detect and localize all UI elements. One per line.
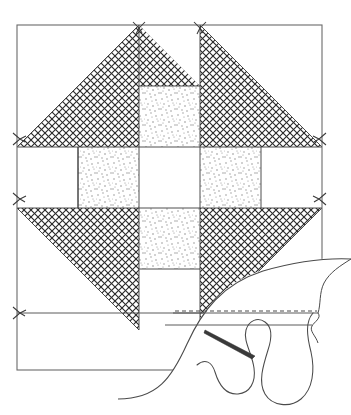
patch-r2c1-stipple	[78, 147, 139, 208]
patch-r1c2-stipple	[139, 86, 200, 147]
quilt-illustration-svg	[0, 0, 351, 415]
patch-r2c2-center-plain	[139, 147, 200, 208]
patch-r2c3-stipple	[200, 147, 261, 208]
patch-r3c2-stipple	[139, 208, 200, 269]
illustration-canvas	[0, 0, 351, 415]
